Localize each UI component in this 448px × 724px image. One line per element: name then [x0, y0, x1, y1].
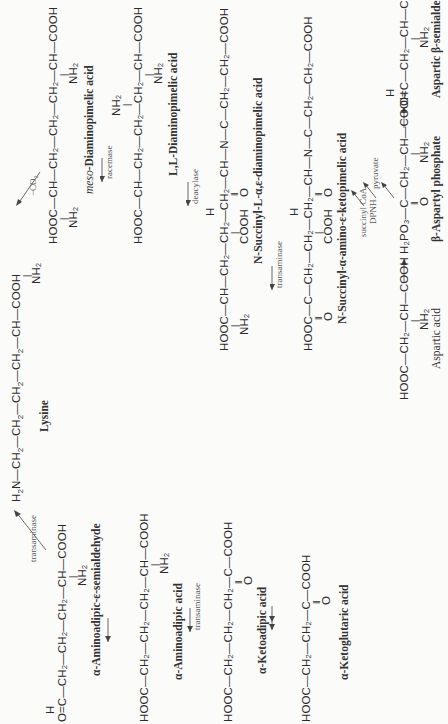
succinyl-keto-formula: HOOC—C—CH₂—CH₂—CH₂—CH—N—C—CH₂—CH₂—COOH — [302, 16, 315, 351]
aas-nh2: NH₂ — [76, 565, 89, 586]
racemase-label: racemase — [104, 146, 114, 179]
succinyl-keto-cooh: COOH — [322, 209, 335, 244]
transaminase-lysine-label: transaminase — [28, 515, 38, 562]
meso-dap-name: meso-Diaminopimelic acid — [83, 65, 95, 194]
succinyl-keto-o-1: O — [322, 312, 335, 321]
ll-dap-formula: HOOC—CH—CH₂—CH₂—CH₂—CH—COOH — [132, 7, 145, 244]
lysine-formula: H2N—CH2—CH2—CH2—CH2—CH—COOH — [10, 274, 27, 502]
aspartyl-phosphate-formula: H₂PO₃—C—CH₂—CH—COOH — [398, 92, 411, 254]
aspartic-acid-name: Aspartic acid — [430, 308, 442, 369]
transaminase-adipic-label: transaminase — [192, 583, 202, 630]
succinyl-dap-name: N-Succinyl-L-α,ε-diaminopimelic acid — [252, 78, 264, 264]
dpnh-label: DPNH — [368, 199, 378, 224]
aaa-to-aas-arrow-icon — [104, 614, 124, 644]
ll-dap-name: L,L-Diaminopimelic acid — [167, 53, 179, 176]
succinyl-dap-h: H — [204, 208, 217, 216]
succinyl-dap-cooh: COOH — [238, 209, 251, 244]
deacylase-label: deacylase — [190, 169, 200, 204]
succinyl-keto-name: N-Succinyl-α-amino-ε-ketopimelic acid — [336, 133, 348, 324]
succinyl-arrow-2-icon — [362, 180, 378, 200]
ll-dap-bond-1: | — [123, 104, 132, 106]
succinyl-dap-nh2: NH₂ — [238, 314, 251, 335]
ketoglutaric-formula: HOOC—CH₂—CH₂—C—COOH — [300, 555, 313, 722]
ketoglutaric-to-ketoadipic-arrow-icon — [264, 602, 284, 632]
lysine-nh2: NH₂ — [30, 263, 43, 284]
aaa-name: α-Aminoadipic acid — [172, 583, 184, 680]
aas-formula: O=C—CH₂—CH₂—CH₂—CH—COOH — [56, 524, 69, 722]
aspartyl-phosphate-name: β-Aspartyl phosphate — [430, 136, 442, 242]
ketoadipic-formula: HOOC—CH₂—CH₂—CH₂—C—COOH — [222, 522, 235, 722]
aspartic-acid-formula: HOOC—CH₂—CH—COOH — [398, 257, 411, 400]
aas-name: α-Aminoadipic-ε-semialdehyde — [90, 523, 102, 676]
decarboxylation-label: −CO₂ — [28, 175, 38, 196]
ll-dap-nh2-2: NH₂ — [152, 63, 165, 84]
lysine-name: Lysine — [38, 400, 50, 432]
nh2-text: NH₂ — [110, 95, 122, 116]
asa-name: Aspartic β-semialdehyde — [430, 0, 442, 98]
succinyl-dap-o: O — [238, 188, 251, 197]
meso-dap-nh2-1: NH₂ — [67, 207, 80, 228]
ketoglutaric-o: O — [320, 596, 333, 605]
asa-h: H — [384, 89, 397, 97]
succinyl-keto-o-2: O — [322, 188, 335, 197]
meso-dap-nh2-2: NH₂ — [67, 63, 80, 84]
meso-dap-formula: HOOC—CH—CH₂—CH₂—CH₂—CH—COOH — [47, 7, 60, 244]
asa-formula: O=C—CH₂—CH—COOH — [398, 0, 411, 106]
succinyl-dap-formula: HOOC—CH—CH₂—CH₂—CH₂—CH—N—C—CH₂—CH₂—COOH — [218, 8, 231, 351]
transaminase-dap-label: transaminase — [274, 241, 284, 288]
rotated-page: H2N—CH2—CH2—CH2—CH2—CH—COOH | NH₂ Lysine… — [0, 0, 448, 724]
aaa-formula: HOOC—CH₂—CH₂—CH₂—CH—COOH — [138, 513, 151, 722]
ketoadipic-o: O — [242, 576, 255, 585]
nh2-text: NH₂ — [30, 263, 42, 284]
aaa-nh2: NH₂ — [158, 553, 171, 574]
succinyl-keto-h: H — [288, 208, 301, 216]
ketoglutaric-name: α-Ketoglutaric acid — [338, 584, 350, 680]
succinyl-arrow-3-icon — [380, 180, 396, 200]
